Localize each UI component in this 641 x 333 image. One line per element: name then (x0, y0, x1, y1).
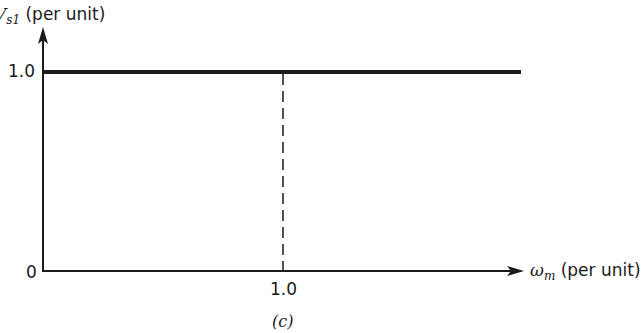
x-tick-1: 1.0 (270, 279, 297, 299)
y-axis-label: Vs1 (per unit) (0, 4, 105, 27)
figure-caption: (c) (272, 312, 293, 331)
y-tick-1: 1.0 (8, 61, 35, 81)
y-tick-0: 0 (26, 262, 37, 282)
x-axis-label: ωm (per unit) (530, 260, 641, 283)
